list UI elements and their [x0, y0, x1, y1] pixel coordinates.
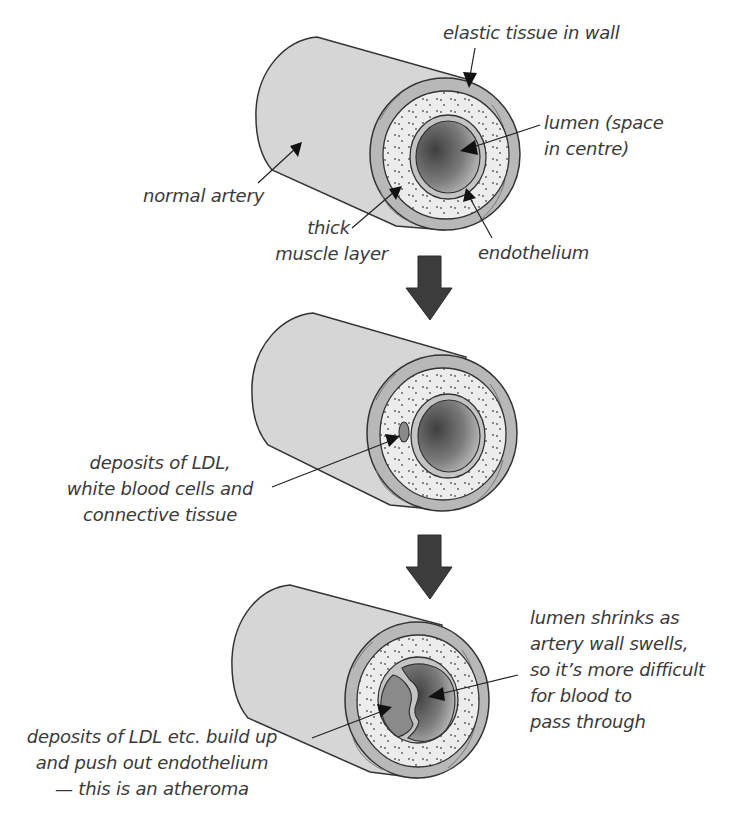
normal-artery-illustration	[256, 37, 540, 238]
early-deposit-artery-illustration	[252, 313, 517, 511]
down-arrow-icon	[406, 256, 452, 320]
down-arrow-icon	[406, 535, 452, 599]
lumen	[416, 121, 480, 193]
label-endothelium: endothelium	[478, 240, 589, 266]
lumen	[418, 400, 480, 472]
label-ldl-deposits: deposits of LDL, white blood cells and c…	[40, 450, 280, 528]
label-atheroma: deposits of LDL etc. build up and push o…	[2, 724, 302, 802]
label-lumen: lumen (space in centre)	[544, 110, 664, 162]
label-normal-artery: normal artery	[143, 183, 264, 209]
label-lumen-shrinks: lumen shrinks as artery wall swells, so …	[530, 605, 705, 735]
label-elastic-tissue: elastic tissue in wall	[443, 20, 620, 46]
label-muscle-layer: thick muscle layer	[260, 215, 388, 267]
ldl-deposit	[399, 422, 409, 442]
